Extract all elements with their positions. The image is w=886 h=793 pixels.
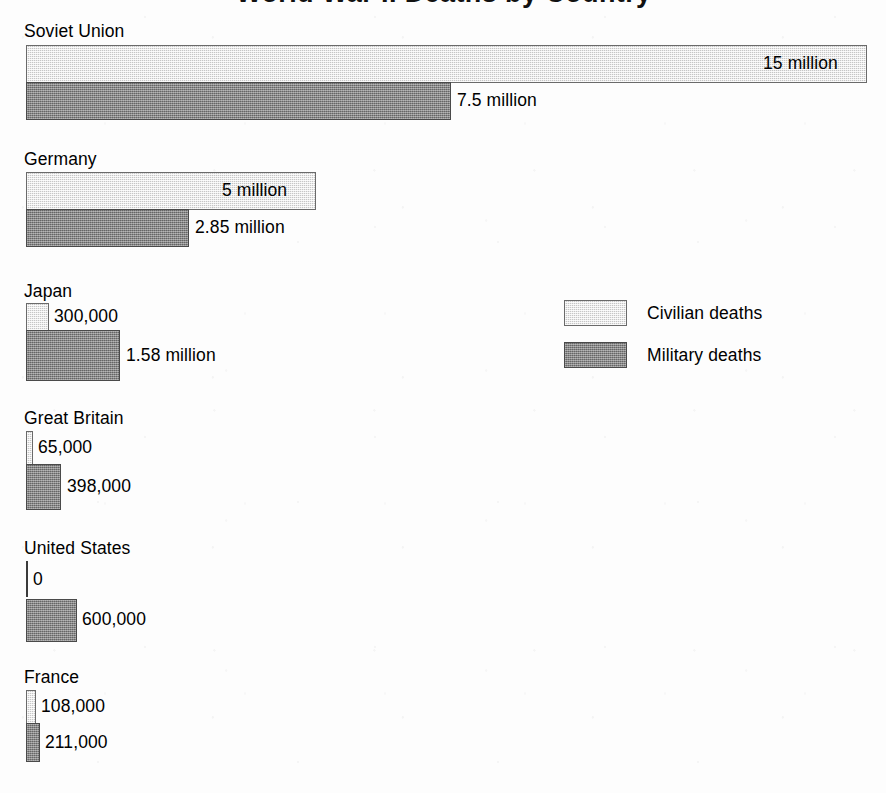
bar-civilian-great-britain bbox=[26, 431, 33, 465]
value-label-civilian-france: 108,000 bbox=[41, 697, 105, 716]
value-label-civilian-united-states: 0 bbox=[33, 570, 43, 589]
bar-military-united-states bbox=[26, 599, 77, 642]
bar-chart-figure: World War II Deaths by Country Soviet Un… bbox=[0, 0, 886, 793]
bar-military-france bbox=[26, 723, 40, 762]
value-label-civilian-great-britain: 65,000 bbox=[38, 438, 92, 457]
value-label-military-france: 211,000 bbox=[45, 733, 108, 752]
legend-item-civilian-deaths: Civilian deaths bbox=[564, 300, 762, 326]
country-label-soviet-union: Soviet Union bbox=[24, 22, 124, 41]
military-swatch-icon bbox=[564, 342, 627, 368]
value-label-military-soviet-union: 7.5 million bbox=[457, 91, 537, 110]
bar-civilian-soviet-union bbox=[26, 45, 867, 83]
bar-military-soviet-union bbox=[26, 82, 451, 120]
value-label-civilian-soviet-union: 15 million bbox=[763, 54, 838, 73]
value-label-military-great-britain: 398,000 bbox=[67, 477, 131, 496]
bar-military-germany bbox=[26, 209, 189, 247]
country-label-united-states: United States bbox=[24, 539, 130, 558]
value-label-military-united-states: 600,000 bbox=[82, 610, 146, 629]
country-group-great-britain: Great Britain 65,000 398,000 bbox=[0, 400, 886, 528]
value-label-military-japan: 1.58 million bbox=[126, 346, 216, 365]
legend-label-military-deaths: Military deaths bbox=[647, 346, 761, 365]
legend-label-civilian-deaths: Civilian deaths bbox=[647, 304, 762, 323]
chart-title-cropped: World War II Deaths by Country bbox=[0, 0, 886, 10]
country-group-germany: Germany 5 million 2.85 million bbox=[0, 140, 886, 270]
country-group-japan: Japan 300,000 1.58 million bbox=[0, 270, 886, 400]
bar-civilian-france bbox=[26, 690, 36, 724]
country-group-united-states: United States 0 600,000 bbox=[0, 528, 886, 655]
civilian-swatch-icon bbox=[564, 300, 627, 326]
country-group-france: France 108,000 211,000 bbox=[0, 655, 886, 793]
legend-item-military-deaths: Military deaths bbox=[564, 342, 761, 368]
bar-civilian-united-states bbox=[26, 561, 28, 597]
bar-military-japan bbox=[26, 330, 120, 381]
bar-civilian-japan bbox=[26, 303, 49, 331]
bar-military-great-britain bbox=[26, 464, 61, 510]
country-label-france: France bbox=[24, 668, 79, 687]
value-label-civilian-germany: 5 million bbox=[222, 181, 287, 200]
value-label-civilian-japan: 300,000 bbox=[54, 307, 118, 326]
chart-title-text: World War II Deaths by Country bbox=[236, 0, 652, 9]
country-label-japan: Japan bbox=[24, 282, 72, 301]
country-group-soviet-union: Soviet Union 15 million 7.5 million bbox=[0, 0, 886, 140]
value-label-military-germany: 2.85 million bbox=[195, 218, 285, 237]
country-label-great-britain: Great Britain bbox=[24, 409, 124, 428]
country-label-germany: Germany bbox=[24, 150, 97, 169]
